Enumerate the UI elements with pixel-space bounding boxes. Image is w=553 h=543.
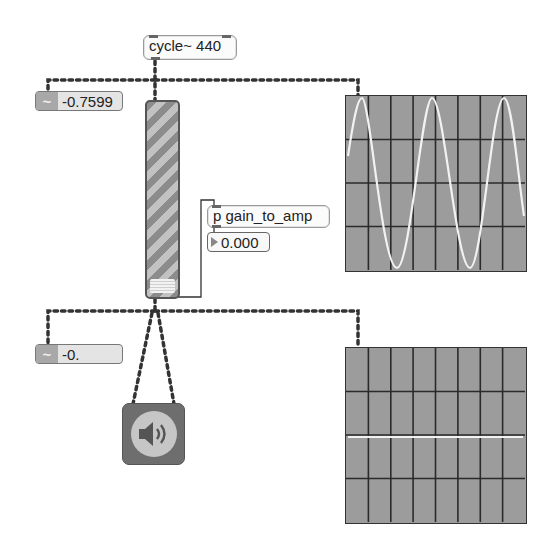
signal-number-top[interactable]: ~ -0.7599: [35, 91, 123, 111]
signal-value: -0.: [58, 346, 80, 363]
scope-top[interactable]: [345, 95, 527, 272]
subpatch-gain-to-amp[interactable]: p gain_to_amp: [207, 205, 330, 228]
tilde-icon: ~: [36, 92, 58, 110]
scope-top-display: [346, 96, 525, 270]
cycle-object[interactable]: cycle~ 440: [143, 35, 237, 60]
number-box[interactable]: 0.000: [207, 232, 270, 252]
signal-value: -0.7599: [58, 93, 113, 110]
triangle-icon: [211, 237, 218, 247]
outlet[interactable]: [151, 57, 160, 60]
outlet[interactable]: [212, 225, 221, 228]
gain-slider[interactable]: [145, 100, 180, 299]
inlet[interactable]: [212, 205, 221, 208]
inlet[interactable]: [149, 35, 158, 38]
number-value: 0.000: [221, 234, 259, 251]
cycle-label: cycle~ 440: [149, 37, 221, 54]
signal-number-bottom[interactable]: ~ -0.: [35, 344, 123, 364]
scope-bottom[interactable]: [345, 347, 527, 524]
subpatch-label: p gain_to_amp: [213, 207, 312, 224]
dac-button[interactable]: [122, 403, 185, 465]
inlet[interactable]: [222, 35, 231, 38]
tilde-icon: ~: [36, 345, 58, 363]
slider-knob[interactable]: [150, 279, 175, 293]
speaker-icon: [131, 411, 177, 457]
scope-bottom-display: [346, 348, 525, 522]
